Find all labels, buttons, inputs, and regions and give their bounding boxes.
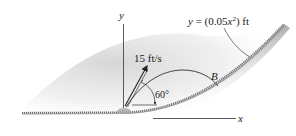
velocity-label: 15 ft/s [134,52,162,64]
projectile-diagram: y x y = (0.05x2) ft 15 ft/s 60° B [0,0,296,136]
y-axis-label: y [118,9,124,21]
launch-mound [117,108,131,114]
equation-mid: = (0.05 [193,15,228,28]
angle-label: 60° [155,89,169,100]
x-axis-label: x [237,112,243,124]
equation-tail: ) ft [236,15,249,28]
point-b-label: B [211,70,218,82]
equation-label: y = (0.05x2) ft [187,15,249,28]
